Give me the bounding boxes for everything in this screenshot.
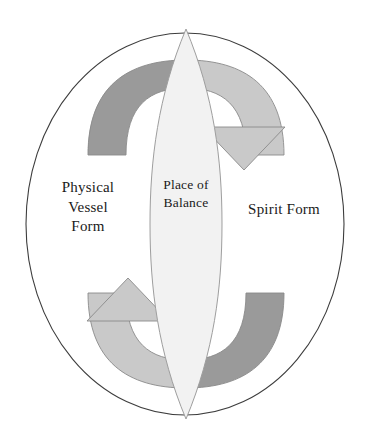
label-spirit-form: Spirit Form — [226, 200, 342, 220]
balance-diagram: Physical Vessel Form Place of Balance Sp… — [0, 0, 367, 444]
label-physical-vessel-form: Physical Vessel Form — [36, 178, 140, 237]
label-place-of-balance: Place of Balance — [146, 176, 226, 212]
